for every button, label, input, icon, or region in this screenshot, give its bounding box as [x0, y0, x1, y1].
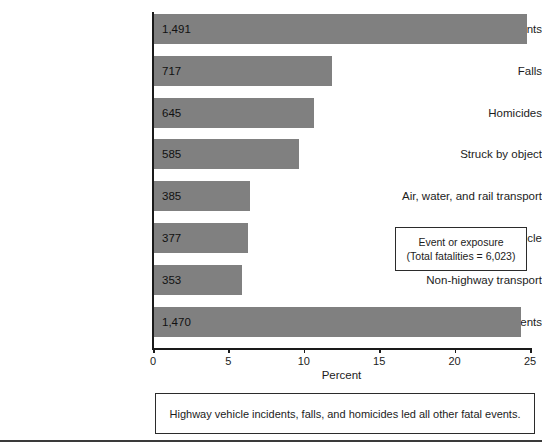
bar-value-label: 717: [162, 65, 181, 77]
bar-row: 717: [153, 56, 533, 86]
bar-row: 645: [153, 98, 533, 128]
bar-row: 385: [153, 181, 533, 211]
x-axis-line: [152, 348, 530, 350]
x-tick-mark: [379, 348, 381, 353]
x-tick-mark: [153, 348, 155, 353]
x-tick-label: 0: [150, 355, 156, 367]
bottom-rule-divider: [0, 440, 542, 442]
horizontal-bar-chart: Highway incidentsFallsHomicidesStruck by…: [0, 0, 542, 446]
bar-row: 1,491: [153, 14, 533, 44]
caption-text: Highway vehicle incidents, falls, and ho…: [170, 408, 521, 420]
x-tick-label: 5: [225, 355, 231, 367]
x-tick-mark: [228, 348, 230, 353]
bar-value-label: 1,470: [162, 316, 191, 328]
bar-row: 1,470: [153, 307, 533, 337]
x-tick-mark: [530, 348, 532, 353]
x-axis-title: Percent: [153, 369, 530, 381]
bars-layer: 1,4917176455853853773531,470: [153, 14, 533, 348]
caption-box: Highway vehicle incidents, falls, and ho…: [155, 393, 535, 434]
bar-value-label: 1,491: [162, 23, 191, 35]
x-tick-label: 20: [448, 355, 460, 367]
x-tick-label: 10: [298, 355, 310, 367]
legend-box: Event or exposure (Total fatalities = 6,…: [395, 227, 527, 271]
x-tick-mark: [455, 348, 457, 353]
legend-title: Event or exposure: [418, 235, 503, 249]
y-axis-line: [152, 12, 154, 350]
bar-row: 585: [153, 139, 533, 169]
x-tick-label: 25: [524, 355, 536, 367]
bar: [153, 307, 521, 337]
bar-value-label: 585: [162, 148, 181, 160]
bar-value-label: 353: [162, 274, 181, 286]
bar-value-label: 377: [162, 232, 181, 244]
bar-value-label: 645: [162, 107, 181, 119]
legend-total: (Total fatalities = 6,023): [407, 249, 516, 263]
x-tick-label: 15: [373, 355, 385, 367]
x-tick-mark: [304, 348, 306, 353]
bar: [153, 14, 527, 44]
bar-value-label: 385: [162, 190, 181, 202]
